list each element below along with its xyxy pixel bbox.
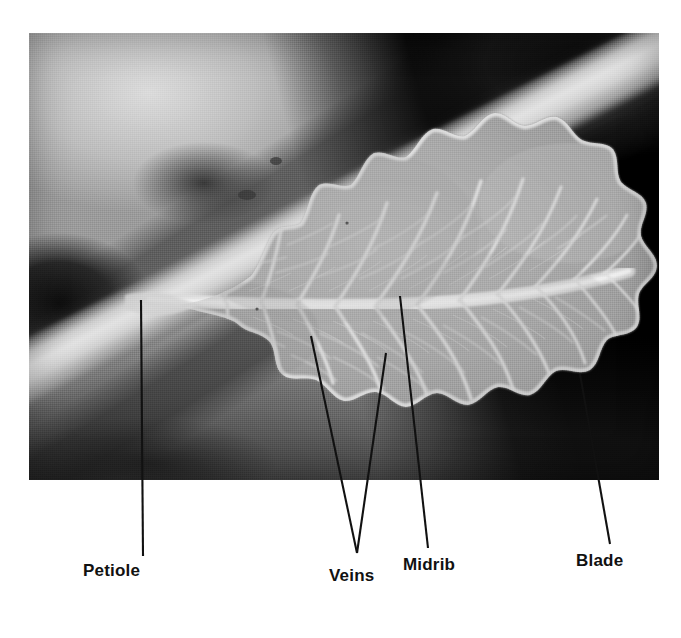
callout-label-blade: Blade [576, 551, 623, 571]
callout-label-veins: Veins [329, 566, 374, 586]
callout-label-midrib: Midrib [403, 555, 455, 575]
callout-label-petiole: Petiole [83, 561, 140, 581]
leaf-photograph [29, 33, 659, 480]
leaf-anatomy-figure: Petiole Veins Midrib Blade [0, 0, 681, 638]
leaf-illustration [29, 33, 659, 480]
leaf-shading [159, 143, 659, 413]
